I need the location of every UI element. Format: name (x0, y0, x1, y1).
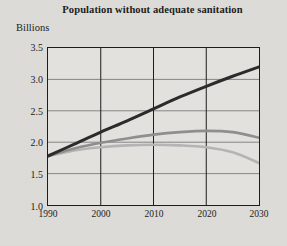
gridlines (48, 48, 259, 205)
x-tick-5: 2030 (250, 209, 269, 219)
x-tick-4: 2020 (198, 209, 217, 219)
x-tick-1: 1990 (39, 209, 58, 219)
x-tick-3: 2010 (145, 209, 164, 219)
x-tick-2: 2000 (92, 209, 111, 219)
chart-plot-svg (48, 48, 259, 205)
plot-area (47, 47, 260, 206)
chart-page: Population without adequate sanitation B… (0, 0, 287, 246)
